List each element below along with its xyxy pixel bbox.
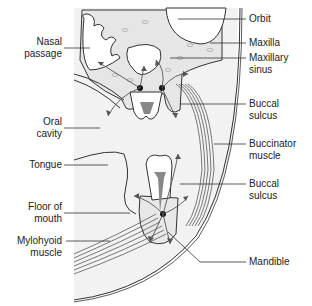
- label-floor-of-mouth: Floor of mouth: [0, 201, 62, 225]
- label-nasal-passage: Nasal passage: [0, 36, 62, 60]
- label-buccal-sulcus-lower: Buccal sulcus: [249, 178, 279, 202]
- label-tongue: Tongue: [0, 159, 62, 171]
- label-mandible: Mandible: [249, 256, 290, 268]
- label-orbit: Orbit: [249, 13, 271, 25]
- label-oral-cavity: Oral cavity: [0, 116, 62, 140]
- label-buccal-sulcus-upper: Buccal sulcus: [249, 98, 279, 122]
- label-buccinator-muscle: Buccinator muscle: [249, 138, 296, 162]
- label-maxilla: Maxilla: [249, 37, 280, 49]
- label-maxillary-sinus: Maxillary sinus: [249, 52, 288, 76]
- label-mylohyoid-muscle: Mylohyoid muscle: [0, 235, 62, 259]
